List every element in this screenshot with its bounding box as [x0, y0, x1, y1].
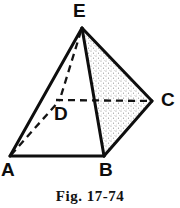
edge-E-D — [60, 31, 81, 99]
pyramid-diagram — [0, 0, 180, 208]
vertex-label-D: D — [54, 104, 68, 123]
vertex-label-B: B — [99, 160, 113, 179]
vertex-label-A: A — [1, 160, 15, 179]
vertex-label-E: E — [73, 1, 86, 20]
vertex-label-C: C — [161, 90, 175, 109]
edge-E-A — [10, 28, 82, 156]
figure-caption: Fig. 17-74 — [0, 189, 180, 204]
figure-container: E C D A B Fig. 17-74 — [0, 0, 180, 208]
